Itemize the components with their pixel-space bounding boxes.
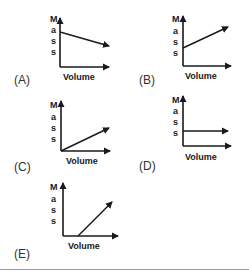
y-label-letter: a <box>51 112 57 122</box>
y-label-letter: s <box>51 123 56 133</box>
y-label-letter: s <box>173 128 178 138</box>
option-label: (A) <box>14 73 30 87</box>
mass-volume-graph-options: M a s s Volume (A) M a s s Volume (B) M … <box>0 0 249 278</box>
y-label-letter: s <box>51 205 56 215</box>
data-line <box>183 27 228 48</box>
option-label: (C) <box>14 160 31 174</box>
graph-a: M a s s Volume (A) <box>14 14 109 87</box>
y-label-letter: M <box>50 14 58 24</box>
y-label-letter: M <box>172 14 180 24</box>
x-axis-label: Volume <box>66 156 98 166</box>
graph-c: M a s s Volume (C) <box>14 100 110 174</box>
x-axis-label: Volume <box>63 72 95 82</box>
x-axis-label: Volume <box>68 241 100 251</box>
option-label: (D) <box>139 159 156 173</box>
y-label-letter: a <box>173 106 179 116</box>
y-label-letter: a <box>51 194 57 204</box>
y-label-letter: s <box>173 48 178 58</box>
data-line <box>78 202 112 236</box>
graph-e: M a s s Volume (E) <box>14 182 118 261</box>
graph-b: M a s s Volume (B) <box>139 14 231 87</box>
option-label: (B) <box>139 73 155 87</box>
option-label: (E) <box>14 247 30 261</box>
y-label-letter: a <box>173 26 179 36</box>
divider <box>0 269 249 270</box>
y-label-letter: M <box>50 182 58 192</box>
y-label-letter: s <box>51 47 56 57</box>
data-line <box>60 32 109 46</box>
y-label-letter: s <box>51 134 56 144</box>
x-axis-label: Volume <box>185 71 217 81</box>
y-label-letter: s <box>173 37 178 47</box>
y-label-letter: s <box>51 216 56 226</box>
y-label-letter: s <box>173 117 178 127</box>
graph-d: M a s s Volume (D) <box>139 95 231 173</box>
x-axis-label: Volume <box>185 152 217 162</box>
y-label-letter: M <box>172 95 180 105</box>
y-label-letter: a <box>51 25 57 35</box>
y-label-letter: M <box>50 100 58 110</box>
y-label-letter: s <box>51 36 56 46</box>
data-line <box>61 128 109 151</box>
